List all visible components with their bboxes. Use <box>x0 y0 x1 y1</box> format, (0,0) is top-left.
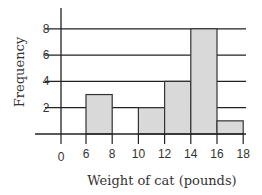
histogram-chart: 0681012141618 2468 Weight of cat (pounds… <box>0 0 262 195</box>
y-tick-label: 2 <box>43 101 50 115</box>
x-axis-title: Weight of cat (pounds) <box>87 173 236 188</box>
y-axis-title: Frequency <box>12 36 27 107</box>
x-tick-label: 0 <box>58 150 65 164</box>
x-tick-label: 18 <box>237 147 251 161</box>
x-tick-label: 8 <box>109 147 116 161</box>
histogram-bar <box>138 108 164 134</box>
x-ticks: 0681012141618 <box>58 134 251 164</box>
y-tick-label: 4 <box>43 74 50 88</box>
y-ticks: 2468 <box>43 22 50 115</box>
y-tick-label: 8 <box>43 22 50 36</box>
x-tick-label: 12 <box>158 147 172 161</box>
histogram-bar <box>86 95 112 134</box>
x-tick-label: 14 <box>184 147 198 161</box>
y-tick-label: 6 <box>43 48 50 62</box>
histogram-bar <box>165 81 191 134</box>
x-tick-label: 6 <box>83 147 90 161</box>
histogram-bar <box>191 29 217 134</box>
x-tick-label: 16 <box>210 147 224 161</box>
x-tick-label: 10 <box>132 147 146 161</box>
histogram-bar <box>217 121 243 134</box>
